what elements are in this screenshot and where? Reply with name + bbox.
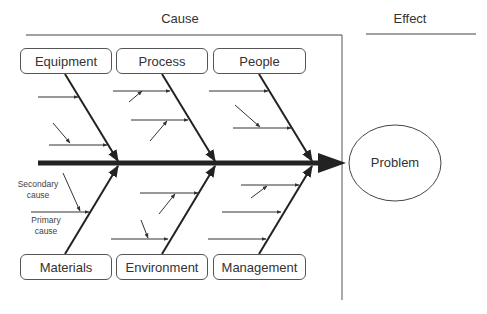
bone-people: [259, 74, 312, 161]
cause-header: Cause: [140, 11, 220, 26]
problem-label: Problem: [355, 155, 435, 170]
bone-process: [162, 74, 215, 161]
category-box-management: Management: [213, 254, 306, 280]
category-box-equipment: Equipment: [20, 48, 112, 74]
primary-cause-annotation: Primary cause: [26, 215, 66, 237]
bone-equipment: [65, 74, 118, 161]
bone-management: [259, 166, 312, 254]
bone-materials: [65, 166, 118, 254]
category-box-people: People: [213, 48, 306, 74]
category-box-materials: Materials: [20, 254, 112, 280]
category-box-environment: Environment: [116, 254, 208, 280]
bone-environment: [162, 166, 215, 254]
effect-header: Effect: [370, 11, 450, 26]
secondary-cause-annotation: Secondary cause: [14, 179, 62, 201]
category-box-process: Process: [116, 48, 208, 74]
